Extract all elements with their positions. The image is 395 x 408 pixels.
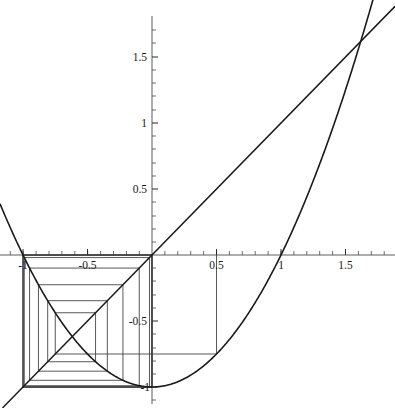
y-label-1.5: 1.5 xyxy=(133,51,148,63)
x-label-1.5: 1.5 xyxy=(338,259,353,271)
x-label--0.5: -0.5 xyxy=(78,259,96,271)
x-label-1: 1 xyxy=(278,259,284,271)
y-label-0.5: 0.5 xyxy=(133,183,148,195)
x-label-0.5: 0.5 xyxy=(209,259,224,271)
cobweb-plot: -1 -0.5 0.5 1 1.5 1.5 1 0.5 -0.5 -1 xyxy=(0,0,395,408)
x-label--1: -1 xyxy=(18,259,28,271)
y-label--0.5: -0.5 xyxy=(129,315,147,327)
y-label--1: -1 xyxy=(140,381,150,393)
plot-background xyxy=(0,0,395,408)
y-label-1: 1 xyxy=(141,117,147,129)
